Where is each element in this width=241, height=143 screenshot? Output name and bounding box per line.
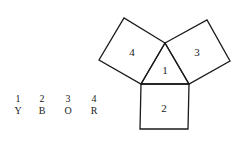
region-label-2: 2 [161, 102, 167, 114]
legend-letter-b: B [39, 105, 46, 116]
region-label-1: 1 [162, 64, 168, 76]
legend-number-3: 3 [66, 93, 71, 104]
legend-number-1: 1 [16, 93, 21, 104]
color-legend: 1 2 3 4 Y B O R [14, 93, 97, 116]
figure-canvas: 1 2 3 4 1 2 3 4 Y B O R [0, 0, 241, 143]
legend-number-4: 4 [92, 93, 97, 104]
region-label-4: 4 [129, 46, 135, 58]
legend-letter-r: R [91, 105, 98, 116]
region-label-3: 3 [194, 46, 200, 58]
legend-letter-o: O [64, 105, 71, 116]
legend-letter-y: Y [14, 105, 21, 116]
legend-number-2: 2 [40, 93, 45, 104]
